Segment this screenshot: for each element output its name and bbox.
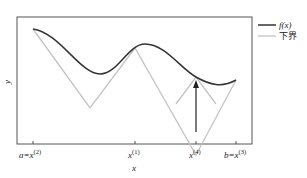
legend-label-fx: f(x) xyxy=(279,20,292,30)
legend: f(x) 下界 xyxy=(258,20,297,41)
chart: a=x(2) x(1) x(4) b=x(3) x y f(x) 下界 xyxy=(0,0,307,178)
arrow-up-icon xyxy=(193,80,199,88)
tick-label-a: a=x(2) xyxy=(19,148,41,160)
tick-label-x1: x(1) xyxy=(127,148,140,160)
tick-label-x4: x(4) xyxy=(188,148,201,160)
tick-label-b: b=x(3) xyxy=(224,148,246,160)
x-axis-label: x xyxy=(131,163,136,173)
legend-label-lower-bound: 下界 xyxy=(279,31,297,41)
y-axis-label: y xyxy=(2,80,12,85)
fx-curve xyxy=(33,29,236,85)
plot-frame xyxy=(17,17,252,144)
